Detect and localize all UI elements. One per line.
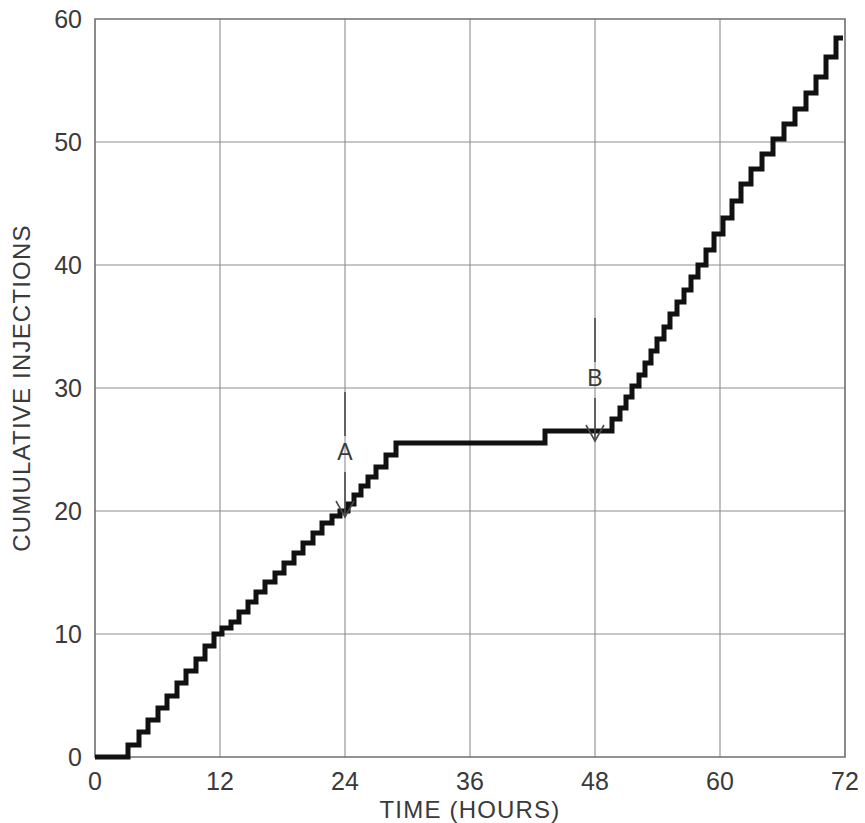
chart-figure: A B 60 50 40 30 20 10 0 0 12 24 36 48 (0, 0, 865, 823)
y-tick-label-40: 40 (54, 251, 82, 279)
y-tick-labels: 60 50 40 30 20 10 0 (54, 5, 82, 771)
annotation-a: A (336, 392, 354, 517)
annotation-a-label: A (337, 439, 353, 465)
x-tick-label-24: 24 (331, 767, 359, 795)
cumulative-step-curve (95, 38, 843, 757)
x-tick-labels: 0 12 24 36 48 60 72 (88, 767, 859, 795)
x-tick-label-12: 12 (206, 767, 234, 795)
x-tick-label-48: 48 (581, 767, 609, 795)
annotation-b-label: B (587, 365, 602, 391)
annotation-b: B (586, 318, 604, 441)
y-tick-label-30: 30 (54, 374, 82, 402)
cumulative-injections-chart: A B 60 50 40 30 20 10 0 0 12 24 36 48 (0, 0, 865, 823)
x-axis-title: TIME (HOURS) (379, 796, 560, 823)
y-tick-label-10: 10 (54, 620, 82, 648)
y-axis-title: CUMULATIVE INJECTIONS (8, 224, 35, 551)
x-tick-label-36: 36 (456, 767, 484, 795)
x-tick-label-60: 60 (706, 767, 734, 795)
y-tick-label-60: 60 (54, 5, 82, 33)
x-tick-label-0: 0 (88, 767, 102, 795)
x-tick-label-72: 72 (831, 767, 859, 795)
y-tick-label-20: 20 (54, 497, 82, 525)
y-tick-label-0: 0 (68, 743, 82, 771)
y-tick-label-50: 50 (54, 128, 82, 156)
